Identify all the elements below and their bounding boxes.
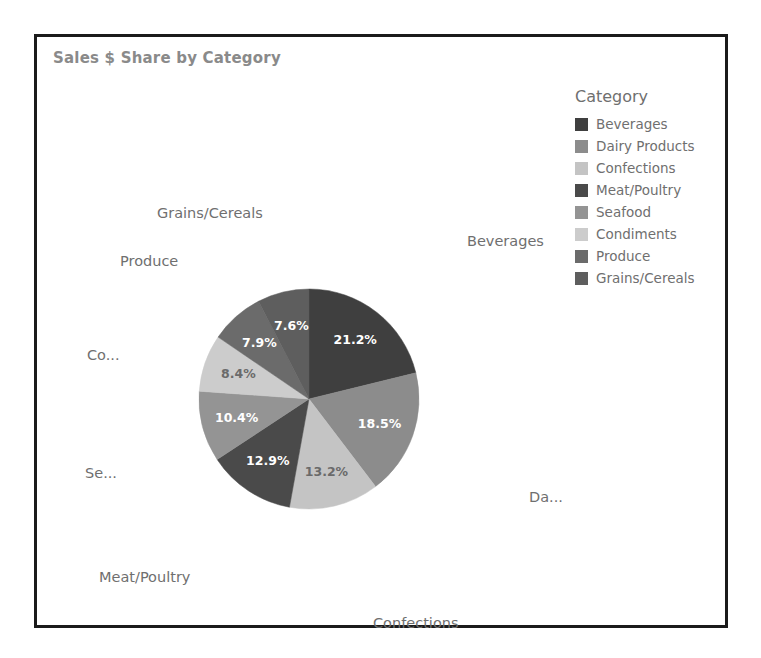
legend-item-label: Produce: [596, 248, 650, 264]
legend-color-swatch: [575, 228, 588, 241]
pie-slice-value-label: 12.9%: [246, 453, 290, 468]
pie-outer-category-label: Beverages: [467, 233, 544, 249]
pie-slice-value-label: 8.4%: [221, 366, 256, 381]
pie-outer-category-label: Confections: [373, 615, 459, 631]
pie-slice-value-label: 7.9%: [242, 335, 277, 350]
legend-item-label: Seafood: [596, 204, 651, 220]
legend-item-label: Dairy Products: [596, 138, 695, 154]
legend-color-swatch: [575, 118, 588, 131]
chart-frame: Sales $ Share by Category 21.2%18.5%13.2…: [34, 34, 728, 628]
pie-slice-value-label: 7.6%: [274, 318, 309, 333]
legend-item[interactable]: Produce: [575, 245, 725, 267]
legend-color-swatch: [575, 140, 588, 153]
legend-item[interactable]: Condiments: [575, 223, 725, 245]
legend: Category BeveragesDairy ProductsConfecti…: [575, 87, 725, 289]
pie-slice-value-label: 21.2%: [333, 332, 377, 347]
pie-outer-category-label: Da...: [529, 489, 563, 505]
legend-item-label: Meat/Poultry: [596, 182, 681, 198]
legend-item[interactable]: Meat/Poultry: [575, 179, 725, 201]
legend-item[interactable]: Dairy Products: [575, 135, 725, 157]
pie-outer-category-label: Grains/Cereals: [157, 205, 263, 221]
legend-item-label: Beverages: [596, 116, 668, 132]
legend-item[interactable]: Beverages: [575, 113, 725, 135]
legend-color-swatch: [575, 162, 588, 175]
legend-item-label: Confections: [596, 160, 676, 176]
legend-title: Category: [575, 87, 725, 106]
legend-color-swatch: [575, 206, 588, 219]
legend-item[interactable]: Seafood: [575, 201, 725, 223]
pie-slice-value-label: 13.2%: [305, 464, 349, 479]
legend-item-label: Grains/Cereals: [596, 270, 695, 286]
legend-color-swatch: [575, 184, 588, 197]
pie-outer-category-label: Se...: [85, 465, 117, 481]
pie-outer-category-label: Co...: [87, 347, 120, 363]
legend-color-swatch: [575, 272, 588, 285]
pie-outer-category-label: Produce: [120, 253, 178, 269]
pie-slice-value-label: 18.5%: [358, 416, 402, 431]
legend-item-label: Condiments: [596, 226, 677, 242]
pie-outer-category-label: Meat/Poultry: [99, 569, 190, 585]
legend-item[interactable]: Confections: [575, 157, 725, 179]
pie-slice-value-label: 10.4%: [215, 410, 259, 425]
legend-items: BeveragesDairy ProductsConfectionsMeat/P…: [575, 113, 725, 289]
legend-color-swatch: [575, 250, 588, 263]
legend-item[interactable]: Grains/Cereals: [575, 267, 725, 289]
